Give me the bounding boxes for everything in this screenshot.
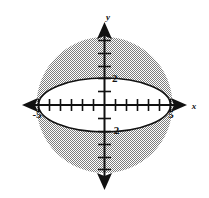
x-tick-label-5: 5 — [168, 108, 174, 120]
y-tick-label-2: 2 — [112, 72, 118, 84]
y-tick-label-negative-2: -2 — [110, 124, 120, 136]
graph-canvas: 2 -2 -5 5 x y — [0, 0, 209, 198]
x-tick-label-negative-5: -5 — [32, 108, 42, 120]
x-axis-label: x — [191, 101, 197, 111]
graph-figure: 2 -2 -5 5 x y — [0, 0, 209, 198]
